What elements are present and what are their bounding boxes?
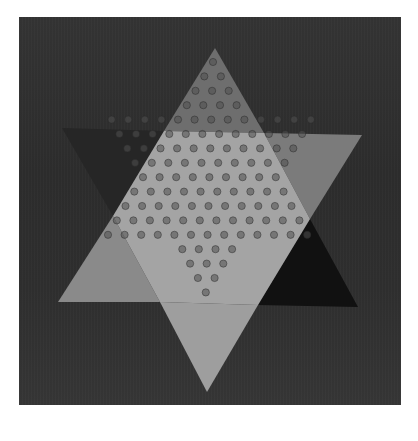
hole bbox=[188, 202, 195, 209]
hole bbox=[255, 202, 262, 209]
hole bbox=[154, 231, 161, 238]
hole bbox=[124, 145, 131, 152]
hole bbox=[113, 217, 120, 224]
hole bbox=[287, 231, 294, 238]
hole bbox=[288, 202, 295, 209]
hole bbox=[203, 260, 210, 267]
hole bbox=[139, 202, 146, 209]
hole bbox=[215, 159, 222, 166]
hole bbox=[221, 231, 228, 238]
hole bbox=[257, 145, 264, 152]
hole bbox=[146, 217, 153, 224]
hole bbox=[187, 260, 194, 267]
hole bbox=[247, 188, 254, 195]
hole bbox=[183, 102, 190, 109]
hole bbox=[104, 231, 111, 238]
hole bbox=[237, 231, 244, 238]
hole bbox=[157, 145, 164, 152]
hole bbox=[246, 217, 253, 224]
hole bbox=[264, 188, 271, 195]
hole bbox=[122, 202, 129, 209]
hole bbox=[140, 145, 147, 152]
hole bbox=[241, 116, 248, 123]
hole bbox=[290, 145, 297, 152]
hole bbox=[198, 159, 205, 166]
hole bbox=[200, 102, 207, 109]
hole bbox=[173, 174, 180, 181]
hole bbox=[180, 188, 187, 195]
hole bbox=[174, 145, 181, 152]
hole bbox=[171, 231, 178, 238]
hole bbox=[133, 130, 140, 137]
hole bbox=[174, 116, 181, 123]
hole bbox=[155, 202, 162, 209]
hole bbox=[116, 130, 123, 137]
hole bbox=[230, 188, 237, 195]
hole bbox=[132, 159, 139, 166]
hole bbox=[192, 87, 199, 94]
hole bbox=[229, 246, 236, 253]
hole bbox=[204, 231, 211, 238]
hole bbox=[232, 130, 239, 137]
hole bbox=[201, 73, 208, 80]
hole bbox=[279, 217, 286, 224]
hole bbox=[265, 130, 272, 137]
hole bbox=[307, 116, 314, 123]
hole bbox=[139, 174, 146, 181]
hole bbox=[225, 87, 232, 94]
hole bbox=[271, 202, 278, 209]
hole bbox=[209, 87, 216, 94]
hole bbox=[220, 260, 227, 267]
hole bbox=[190, 145, 197, 152]
hole bbox=[216, 102, 223, 109]
hole bbox=[199, 130, 206, 137]
hole bbox=[209, 58, 216, 65]
hole bbox=[196, 217, 203, 224]
hole bbox=[121, 231, 128, 238]
hole bbox=[223, 145, 230, 152]
hole bbox=[214, 188, 221, 195]
hole bbox=[238, 202, 245, 209]
hole bbox=[202, 289, 209, 296]
hole bbox=[296, 217, 303, 224]
hole bbox=[149, 130, 156, 137]
hole bbox=[165, 159, 172, 166]
hole bbox=[270, 231, 277, 238]
chinese-checkers-board bbox=[0, 0, 418, 441]
hole bbox=[229, 217, 236, 224]
hole bbox=[217, 73, 224, 80]
hole bbox=[163, 217, 170, 224]
hole bbox=[195, 246, 202, 253]
hole bbox=[208, 116, 215, 123]
hole bbox=[249, 130, 256, 137]
hole bbox=[205, 202, 212, 209]
hole bbox=[273, 145, 280, 152]
hole bbox=[191, 116, 198, 123]
hole bbox=[141, 116, 148, 123]
hole bbox=[231, 159, 238, 166]
hole bbox=[216, 130, 223, 137]
hole bbox=[180, 217, 187, 224]
hole bbox=[189, 174, 196, 181]
hole bbox=[207, 145, 214, 152]
hole bbox=[233, 102, 240, 109]
hole bbox=[272, 174, 279, 181]
hole bbox=[181, 159, 188, 166]
hole bbox=[274, 116, 281, 123]
hole bbox=[158, 116, 165, 123]
hole bbox=[257, 116, 264, 123]
hole bbox=[211, 274, 218, 281]
hole bbox=[164, 188, 171, 195]
hole bbox=[240, 145, 247, 152]
hole bbox=[125, 116, 132, 123]
hole bbox=[280, 188, 287, 195]
hole bbox=[212, 246, 219, 253]
hole bbox=[213, 217, 220, 224]
bottom-point bbox=[160, 302, 258, 392]
hole bbox=[224, 116, 231, 123]
hole bbox=[256, 174, 263, 181]
hole bbox=[304, 231, 311, 238]
hole bbox=[197, 188, 204, 195]
hole bbox=[148, 159, 155, 166]
hole bbox=[194, 274, 201, 281]
